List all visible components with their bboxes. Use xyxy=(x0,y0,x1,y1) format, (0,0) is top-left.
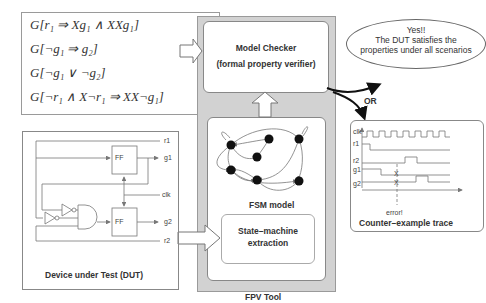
state-node xyxy=(295,177,304,186)
dut-box xyxy=(22,131,179,290)
signal-r1: r1 xyxy=(164,137,170,144)
dut-caption: Device under Test (DUT) xyxy=(45,270,143,280)
state-node xyxy=(295,135,304,144)
trace-signal-clk: clk xyxy=(353,128,362,135)
signal-g1: g1 xyxy=(164,154,172,161)
trace-signal-g2: g2 xyxy=(353,180,361,187)
arrow-fsm-to-checker xyxy=(252,92,278,117)
fsm-states xyxy=(227,135,304,186)
state-node xyxy=(265,135,274,144)
yes-line3: properties under all scenarios xyxy=(347,45,485,55)
state-node xyxy=(253,176,262,185)
fsm-graph xyxy=(217,127,308,191)
arrow-to-yes xyxy=(327,85,378,92)
state-node xyxy=(227,141,236,150)
trace-signal-g1: g1 xyxy=(353,166,361,173)
signal-r2: r2 xyxy=(164,237,170,244)
arrow-to-trace xyxy=(333,92,364,117)
or-label: OR xyxy=(364,96,377,106)
state-node xyxy=(253,153,262,162)
yes-line1: Yes!! xyxy=(347,25,485,35)
arrow-dut-to-extraction xyxy=(178,225,220,251)
counter-example-caption: Counter–example trace xyxy=(359,218,453,228)
result-yes-bubble: Yes!! The DUT satisfies the properties u… xyxy=(346,19,486,69)
error-label: error! xyxy=(386,209,403,216)
trace-signal-r1: r1 xyxy=(353,140,359,147)
ff1-label: FF xyxy=(115,154,124,161)
signal-clk: clk xyxy=(162,191,171,198)
ff2-label: FF xyxy=(115,218,124,225)
arrow-properties-to-checker xyxy=(180,39,202,63)
state-node xyxy=(227,166,236,175)
counter-example-box xyxy=(350,120,484,232)
yes-line2: The DUT satisfies the xyxy=(347,35,485,45)
trace-signal-r2: r2 xyxy=(353,157,359,164)
signal-g2: g2 xyxy=(164,218,172,225)
